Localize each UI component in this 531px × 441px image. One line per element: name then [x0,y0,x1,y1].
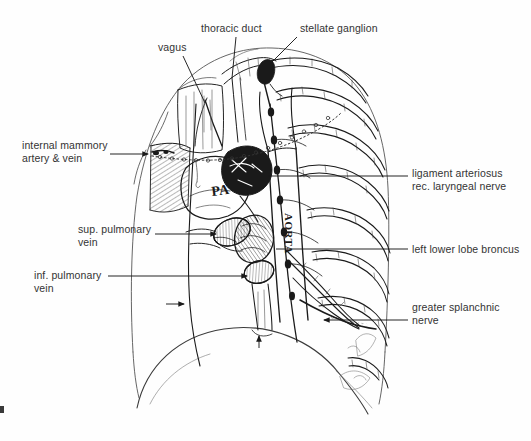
leader-thoracic-duct [232,37,236,78]
handlabel-pa: PA [211,182,231,199]
diaphragm-dome [137,327,372,414]
leader-stellate-ganglion [268,37,297,66]
descending-aorta [259,88,308,322]
label-left-lower-lobe-bronchus: left lower lobe broncus [412,243,519,256]
label-inf-pulmonary-vein: inf. pulmonary vein [34,269,101,295]
anatomical-illustration: PA AORTA [0,0,531,441]
left-lower-lobe-bronchus [234,215,273,263]
label-thoracic-duct: thoracic duct [201,22,262,35]
handlabel-aorta: AORTA [283,213,295,254]
label-ligament-arteriosus-rec-laryngeal-nerve: ligament arteriosus rec. laryngeal nerve [412,167,506,193]
label-greater-splanchnic-nerve: greater splanchnic nerve [412,301,500,327]
vagus-nerve [195,96,222,146]
thoracic-duct [232,78,246,142]
label-stellate-ganglion: stellate ganglion [300,22,378,35]
label-vagus: vagus [158,41,187,54]
edge-artifact [0,406,4,413]
figure-canvas: PA AORTA internal mammory artery & vein … [0,0,531,441]
label-sup-pulmonary-vein: sup. pulmonary vein [78,223,151,249]
label-internal-mammary-artery-vein: internal mammory artery & vein [22,139,108,165]
anterior-chest-wall-hatch [150,143,190,212]
